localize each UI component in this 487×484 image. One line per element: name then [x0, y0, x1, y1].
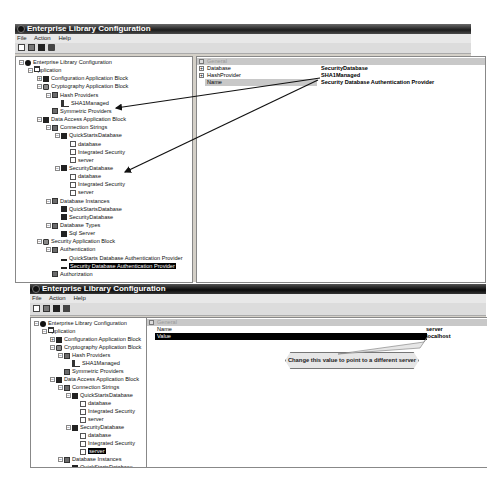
annotation-arrows	[0, 0, 486, 484]
